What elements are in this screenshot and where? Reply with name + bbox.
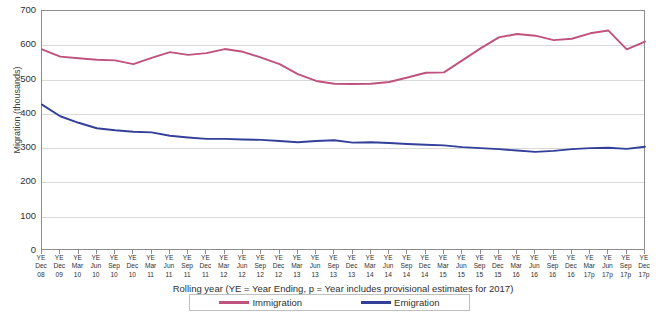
series-lines [42,11,646,251]
series-line-emigration [42,105,645,152]
y-axis-tick-label: 600 [4,39,36,49]
migration-line-chart: Migration (thousands) 010020030040050060… [0,0,658,314]
x-axis-tick-labels: YEDec08YEDec09YEMar10YEJun10YESep10YEDec… [41,254,645,284]
legend-item[interactable]: Immigration [219,298,302,308]
legend-label: Emigration [394,298,439,308]
y-axis-tick-label: 200 [4,176,36,186]
legend-swatch-icon [219,301,249,303]
series-line-immigration [42,31,645,84]
chart-legend: ImmigrationEmigration [189,294,470,311]
x-axis-tick-label-line: 17p [629,271,658,279]
legend-swatch-icon [361,301,391,303]
x-axis-tick-label: YEDec17p [629,254,658,279]
x-axis-tick-label-line: Dec [629,262,658,270]
plot-area [41,10,645,250]
y-axis-tick-label: 700 [4,5,36,15]
x-axis-tick-label-line: YE [629,254,658,262]
y-axis-tick-label: 400 [4,108,36,118]
x-axis-title: Rolling year (YE = Year Ending, p = Year… [41,283,645,294]
y-axis-tick-label: 100 [4,211,36,221]
y-axis-tick-label: 300 [4,142,36,152]
legend-item[interactable]: Emigration [361,298,439,308]
y-axis-tick-label: 500 [4,74,36,84]
legend-label: Immigration [252,298,302,308]
